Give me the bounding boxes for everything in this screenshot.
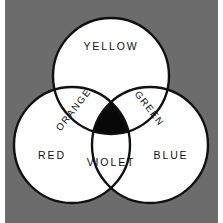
- label-blue: BLUE: [153, 149, 188, 161]
- label-yellow: YELLOW: [83, 40, 138, 52]
- label-violet: VIOLET: [87, 156, 136, 168]
- label-red: RED: [38, 149, 66, 161]
- venn-diagram-svg: YELLOW RED BLUE VIOLET ORANGE GREEN: [0, 0, 223, 223]
- venn-diagram-page: YELLOW RED BLUE VIOLET ORANGE GREEN: [0, 0, 223, 223]
